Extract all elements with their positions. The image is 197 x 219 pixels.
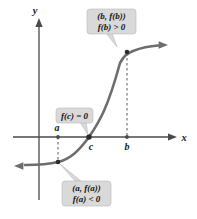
callout-lower-line2: f(a) < 0	[73, 194, 101, 204]
callout-upper: (b, f(b)) f(b) > 0	[87, 9, 136, 47]
callout-upper-line1: (b, f(b))	[97, 11, 126, 21]
callout-middle: f(c) = 0	[56, 108, 93, 135]
point-b-fb	[125, 50, 130, 55]
tick-label-c: c	[89, 141, 94, 152]
y-axis-label: y	[31, 5, 38, 16]
point-a-fa	[56, 160, 61, 165]
curve-right-arrowhead	[159, 41, 168, 49]
tick-label-b: b	[125, 141, 130, 152]
callout-lower-line1: (a, f(a))	[72, 183, 101, 193]
x-axis	[13, 133, 177, 140]
y-axis	[35, 18, 42, 200]
tick-dot-b	[125, 135, 129, 139]
tick-dot-a	[56, 135, 60, 139]
callout-lower: (a, f(a)) f(a) < 0	[60, 164, 111, 206]
ivt-diagram: y x a c b (b, f(b)) f(b) > 0	[0, 0, 197, 219]
curve-left-arrowhead	[14, 162, 23, 170]
callout-upper-line2: f(b) > 0	[98, 22, 126, 32]
tick-label-a: a	[55, 122, 60, 133]
figure-container: y x a c b (b, f(b)) f(b) > 0	[0, 0, 197, 219]
callout-middle-line1: f(c) = 0	[61, 111, 89, 121]
point-c	[86, 134, 91, 139]
x-axis-label: x	[180, 132, 186, 143]
